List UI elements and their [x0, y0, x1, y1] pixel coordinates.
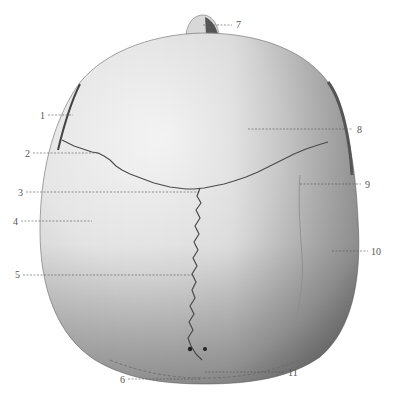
skull-superior-view-illustration — [0, 0, 394, 398]
label-3: 3 — [18, 188, 23, 198]
label-11: 11 — [288, 368, 298, 378]
skull-cap — [40, 33, 359, 384]
label-2: 2 — [25, 149, 30, 159]
label-4: 4 — [13, 217, 18, 227]
nasal-bones — [186, 15, 219, 34]
label-10: 10 — [371, 247, 381, 257]
parietal-foramen-right — [203, 347, 207, 351]
label-8: 8 — [357, 125, 362, 135]
label-5: 5 — [15, 270, 20, 280]
label-6: 6 — [120, 375, 125, 385]
label-1: 1 — [40, 111, 45, 121]
label-9: 9 — [365, 180, 370, 190]
label-7: 7 — [236, 20, 241, 30]
parietal-foramen-left — [188, 347, 192, 351]
